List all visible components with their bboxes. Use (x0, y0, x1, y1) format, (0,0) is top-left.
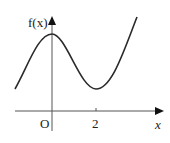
y-axis-arrow-icon (48, 16, 56, 25)
origin-label: O (40, 117, 49, 130)
y-axis-label: f(x) (28, 16, 48, 29)
x-axis-arrow-icon (155, 107, 164, 115)
graph-canvas (0, 0, 170, 143)
graph-figure: f(x) O 2 x (0, 0, 170, 143)
x-axis-label: x (155, 118, 161, 131)
x-tick-label-2: 2 (92, 117, 99, 130)
